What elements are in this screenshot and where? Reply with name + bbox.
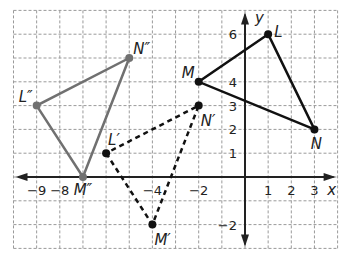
vertex-label: N′ bbox=[201, 112, 216, 130]
x-axis-left-arrow-icon bbox=[16, 173, 28, 181]
tick-labels: −9−8−4−212364321−2xy bbox=[27, 9, 336, 232]
x-tick-label: −2 bbox=[189, 183, 208, 198]
y-axis-down-arrow-icon bbox=[241, 234, 249, 246]
x-tick-label: 2 bbox=[287, 183, 295, 198]
y-tick-label: 4 bbox=[229, 75, 237, 90]
y-axis-up-arrow-icon bbox=[241, 12, 249, 24]
vertex-point bbox=[264, 30, 272, 38]
vertex-labels: LMNL′M′N′L″M″N″ bbox=[19, 23, 322, 248]
x-tick-label: 3 bbox=[310, 183, 318, 198]
x-axis-label: x bbox=[326, 181, 336, 199]
y-axis-label: y bbox=[254, 9, 265, 27]
vertex-label: L′ bbox=[108, 131, 120, 149]
vertex-label: N bbox=[311, 135, 322, 153]
x-tick-label: 1 bbox=[264, 183, 272, 198]
y-tick-label: 2 bbox=[229, 122, 237, 137]
vertex-label: L″ bbox=[19, 88, 33, 106]
y-tick-label: −2 bbox=[218, 218, 237, 233]
y-tick-label: 6 bbox=[229, 27, 237, 42]
vertex-label: M″ bbox=[74, 181, 93, 199]
vertex-point bbox=[79, 173, 87, 181]
grid bbox=[14, 10, 338, 248]
vertex-point bbox=[195, 102, 203, 110]
x-tick-label: −8 bbox=[50, 183, 69, 198]
vertex-label: L bbox=[274, 23, 282, 41]
coordinate-plane: −9−8−4−212364321−2xy LMNL′M′N′L″M″N″ bbox=[0, 0, 342, 259]
y-tick-label: 1 bbox=[229, 146, 237, 161]
vertex-point bbox=[125, 54, 133, 62]
y-tick-label: 3 bbox=[229, 99, 237, 114]
vertex-label: M bbox=[182, 64, 195, 82]
vertex-label: N″ bbox=[133, 40, 150, 58]
vertex-point bbox=[33, 102, 41, 110]
x-axis-right-arrow-icon bbox=[324, 173, 336, 181]
x-tick-label: −9 bbox=[27, 183, 46, 198]
vertex-point bbox=[195, 78, 203, 86]
vertex-point bbox=[102, 149, 110, 157]
x-tick-label: −4 bbox=[143, 183, 162, 198]
vertex-label: M′ bbox=[154, 231, 171, 249]
vertex-point bbox=[148, 221, 156, 229]
vertex-point bbox=[310, 125, 318, 133]
